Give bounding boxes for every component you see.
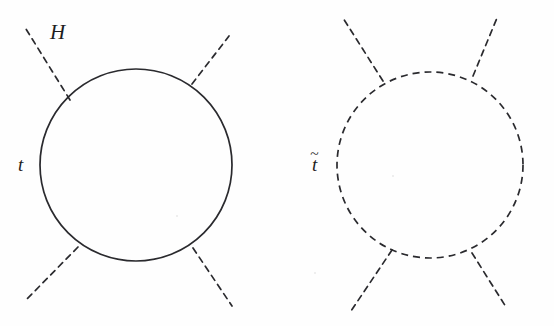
stop-squark-label: ~ t bbox=[312, 155, 317, 174]
higgs-leg-upper-left bbox=[343, 18, 383, 81]
scan-speckle bbox=[176, 215, 178, 217]
higgs-leg-lower-right bbox=[193, 248, 232, 306]
scan-speckle bbox=[314, 272, 316, 274]
higgs-leg-lower-right bbox=[472, 253, 506, 307]
higgs-leg-lower-left bbox=[25, 247, 78, 301]
top-quark-loop-diagram bbox=[25, 29, 232, 306]
higgs-leg-upper-right bbox=[192, 36, 229, 84]
diagram-canvas bbox=[0, 0, 554, 326]
higgs-label: H bbox=[50, 22, 65, 43]
stop-squark-loop-circle bbox=[337, 72, 523, 258]
scan-speckle bbox=[392, 175, 394, 177]
top-quark-label: t bbox=[18, 155, 23, 174]
stop-squark-loop-diagram bbox=[337, 18, 523, 311]
tilde-accent: ~ bbox=[310, 146, 318, 162]
feynman-diagram-figure: H t ~ t bbox=[0, 0, 554, 326]
stop-squark-symbol: ~ t bbox=[312, 155, 317, 174]
higgs-leg-upper-right bbox=[473, 18, 497, 76]
higgs-leg-lower-left bbox=[351, 250, 392, 311]
